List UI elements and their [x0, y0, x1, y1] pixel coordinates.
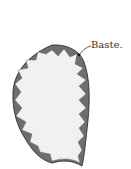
baste-label: Baste. — [91, 39, 123, 50]
baste-marker — [78, 54, 81, 57]
annotation-leader-line — [80, 46, 91, 54]
sewing-diagram — [0, 0, 131, 169]
